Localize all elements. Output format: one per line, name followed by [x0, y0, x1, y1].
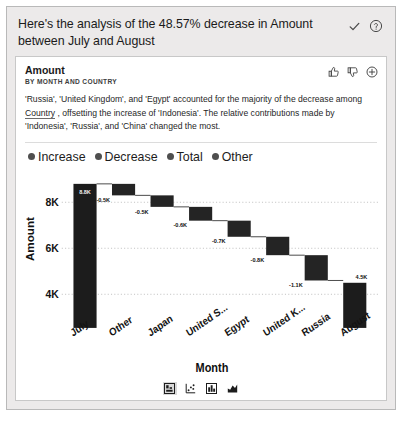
check-icon[interactable] — [343, 16, 365, 36]
x-tick-label: Russia — [300, 310, 332, 339]
chart-bar[interactable] — [112, 184, 135, 196]
card-title: Amount — [25, 64, 327, 76]
x-tick-label: Egypt — [223, 313, 251, 339]
insight-card: Amount BY MONTH AND COUNTRY — [15, 56, 387, 401]
legend-swatch-icon — [167, 153, 174, 160]
card-subtitle: BY MONTH AND COUNTRY — [25, 77, 327, 87]
chart-type-switcher — [16, 381, 386, 400]
x-tick-label: Japan — [146, 312, 175, 338]
y-tick-label: 8K — [45, 196, 58, 209]
bar-data-label: -0.5K — [96, 197, 110, 203]
legend-label: Total — [177, 150, 203, 164]
country-field-link[interactable]: Country — [25, 108, 55, 119]
bar-data-label: -0.8K — [251, 256, 265, 262]
legend-swatch-icon — [95, 153, 102, 160]
scatter-chart-icon[interactable] — [184, 382, 198, 395]
thumbs-down-icon[interactable] — [346, 65, 359, 78]
bar-data-label: 8.8K — [79, 188, 91, 194]
chart-bar[interactable] — [189, 207, 212, 221]
chart-bar[interactable] — [73, 184, 96, 328]
x-axis-title: Month — [196, 362, 229, 375]
help-circle-icon[interactable] — [365, 16, 387, 36]
panel-header: Here's the analysis of the 48.57% decrea… — [7, 7, 395, 56]
legend-swatch-icon — [28, 153, 35, 160]
column-chart-icon[interactable] — [205, 382, 219, 395]
waterfall-chart[interactable]: 8.8K-0.5K-0.5K-0.6K-0.7K-0.8K-1.1K4.5K 4… — [20, 168, 382, 381]
waterfall-chart-icon[interactable] — [163, 382, 177, 395]
card-actions — [327, 64, 378, 78]
chart-x-axis: JulyOtherJapanUnited S...EgyptUnited K..… — [69, 301, 373, 339]
chart-bar[interactable] — [266, 237, 289, 255]
y-tick-label: 4K — [45, 288, 58, 301]
legend-item-other[interactable]: Other — [212, 150, 253, 164]
y-tick-label: 6K — [45, 242, 58, 255]
legend-item-increase[interactable]: Increase — [28, 150, 86, 164]
plus-circle-icon[interactable] — [365, 65, 378, 78]
chart-y-axis: 4K6K8K — [45, 196, 58, 301]
narrative-line-2a: among — [336, 94, 362, 104]
x-tick-label: Other — [107, 313, 134, 338]
card-header: Amount BY MONTH AND COUNTRY — [16, 57, 386, 89]
legend-item-total[interactable]: Total — [167, 150, 203, 164]
legend-label: Other — [222, 150, 253, 164]
y-axis-title: Amount — [24, 217, 35, 261]
chart-legend: Increase Decrease Total Other — [16, 143, 386, 168]
bar-data-label: -0.7K — [212, 238, 226, 244]
area-chart-icon[interactable] — [226, 382, 240, 395]
bar-data-label: 4.5K — [356, 274, 368, 280]
insight-narrative: 'Russia', 'United Kingdom', and 'Egypt' … — [16, 89, 386, 134]
x-tick-label: United S... — [184, 301, 229, 339]
bar-data-label: -0.5K — [135, 208, 149, 214]
bar-data-label: -0.6K — [173, 222, 187, 228]
legend-item-decrease[interactable]: Decrease — [95, 150, 158, 164]
chart-bar[interactable] — [228, 220, 251, 236]
legend-label: Increase — [38, 150, 86, 164]
legend-label: Decrease — [105, 150, 158, 164]
narrative-line-2b: , offsetting the increase of 'Indonesia'… — [55, 108, 323, 118]
bar-data-label: -1.1K — [289, 282, 303, 288]
thumbs-up-icon[interactable] — [327, 65, 340, 78]
chart-bar[interactable] — [305, 255, 328, 280]
x-tick-label: United K... — [261, 301, 307, 339]
narrative-line-1: 'Russia', 'United Kingdom', and 'Egypt' … — [25, 94, 333, 104]
chart-bar[interactable] — [151, 195, 174, 207]
analysis-panel: Here's the analysis of the 48.57% decrea… — [6, 6, 396, 410]
page-title: Here's the analysis of the 48.57% decrea… — [18, 16, 343, 49]
legend-swatch-icon — [212, 153, 219, 160]
card-title-group: Amount BY MONTH AND COUNTRY — [25, 64, 327, 87]
chart-canvas: 8.8K-0.5K-0.5K-0.6K-0.7K-0.8K-1.1K4.5K 4… — [20, 168, 382, 381]
